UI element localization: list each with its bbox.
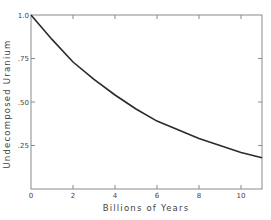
decay-curve (31, 15, 262, 158)
y-axis-title: Undecomposed Uranium (2, 39, 12, 168)
x-axis-title: Billions of Years (103, 203, 190, 213)
y-axis-ticks: .25.50.751.0 (18, 12, 262, 151)
x-tick-label: 10 (237, 192, 246, 200)
x-tick-label: 0 (29, 192, 33, 200)
y-tick-label: 1.0 (18, 12, 29, 20)
x-axis-ticks: 0246810 (29, 15, 246, 200)
x-tick-label: 8 (197, 192, 201, 200)
x-tick-label: 4 (113, 192, 118, 200)
y-tick-label: .50 (18, 99, 29, 107)
decay-chart: 0246810 .25.50.751.0 Billions of Years U… (0, 0, 271, 220)
y-tick-label: .75 (18, 55, 29, 63)
y-tick-label: .25 (18, 142, 29, 150)
x-tick-label: 6 (155, 192, 160, 200)
plot-frame (31, 15, 262, 189)
x-tick-label: 2 (71, 192, 75, 200)
